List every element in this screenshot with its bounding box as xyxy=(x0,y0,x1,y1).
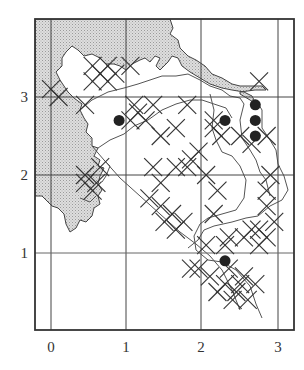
dot-marker xyxy=(114,115,125,126)
dot-marker xyxy=(250,115,261,126)
dot-marker xyxy=(220,115,231,126)
map-area xyxy=(35,19,294,330)
y-tick-label: 3 xyxy=(21,89,29,105)
x-tick-label: 0 xyxy=(47,339,55,355)
dot-marker xyxy=(220,255,231,266)
x-tick-label: 1 xyxy=(122,339,130,355)
y-tick-label: 1 xyxy=(21,245,29,261)
x-axis-labels: 0 1 2 3 xyxy=(47,339,282,355)
y-tick-label: 2 xyxy=(21,167,29,183)
y-axis-labels: 3 2 1 xyxy=(21,89,29,261)
x-tick-label: 2 xyxy=(197,339,205,355)
distribution-map: 0 1 2 3 3 2 1 xyxy=(0,0,304,370)
dot-marker xyxy=(250,131,261,142)
x-tick-label: 3 xyxy=(274,339,282,355)
dot-marker xyxy=(250,99,261,110)
